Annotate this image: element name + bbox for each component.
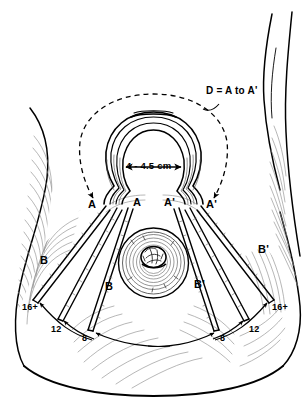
label-left-keyhole-inner-a: A bbox=[133, 197, 141, 208]
formula-label: D = A to A' bbox=[206, 86, 258, 96]
label-right-mark-16plus: 16+ bbox=[272, 303, 288, 312]
canvas-background bbox=[0, 0, 307, 403]
label-right-limb-inner-b-prime: B' bbox=[194, 279, 205, 290]
label-right-mark-8: 8 bbox=[220, 334, 225, 343]
label-right-keyhole-outer-a-prime: A' bbox=[206, 199, 217, 210]
label-left-limb-outer-b: B bbox=[40, 255, 48, 266]
label-left-mark-16plus: 16+ bbox=[22, 303, 38, 312]
label-right-limb-outer-b-prime: B' bbox=[258, 244, 269, 255]
label-right-mark-12: 12 bbox=[249, 325, 259, 334]
label-right-keyhole-inner-a-prime: A' bbox=[164, 197, 175, 208]
diagram-canvas bbox=[0, 0, 307, 403]
nipple-areola-complex bbox=[119, 228, 189, 298]
label-left-mark-12: 12 bbox=[51, 325, 61, 334]
label-left-mark-8: 8 bbox=[82, 334, 87, 343]
surgical-diagram-figure: D = A to A' 4 - 4.5 cm A A A' A' B B B' … bbox=[0, 0, 307, 403]
label-left-keyhole-outer-a: A bbox=[88, 199, 96, 210]
areola-diameter-label: 4 - 4.5 cm bbox=[126, 161, 171, 171]
label-left-limb-inner-b: B bbox=[105, 281, 113, 292]
